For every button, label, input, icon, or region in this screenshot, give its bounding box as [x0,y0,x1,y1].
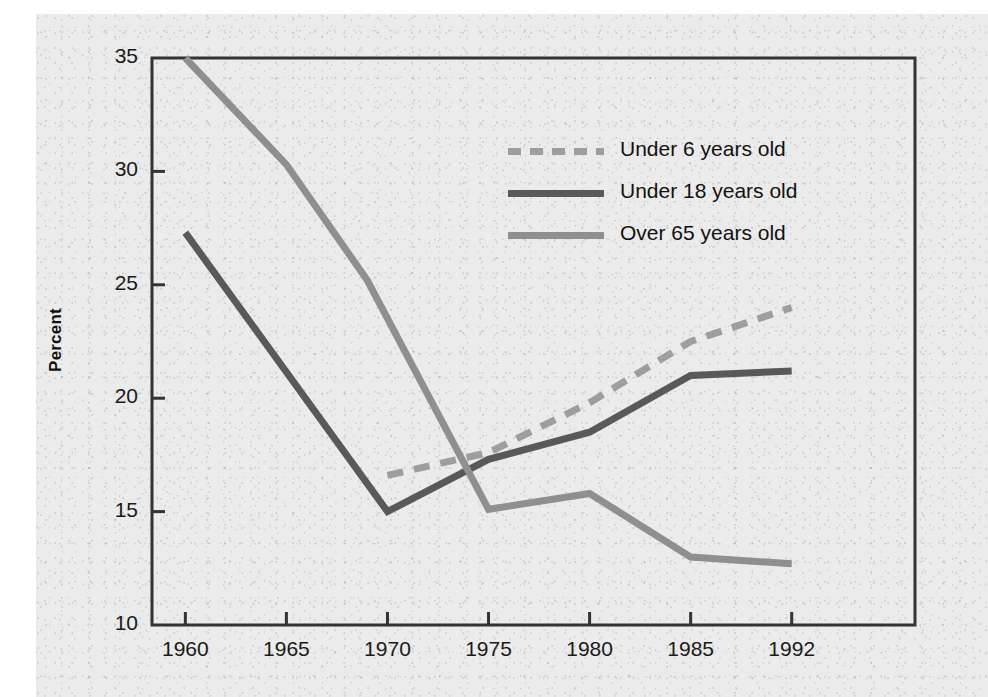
y-axis-title: Percent [46,280,66,400]
x-tick-label: 1960 [140,637,230,661]
y-tick-label: 20 [78,384,138,408]
legend-swatch-icon [508,190,604,197]
data-series-layer [185,58,791,564]
y-tick-label: 25 [78,271,138,295]
legend-label: Under 6 years old [620,137,786,161]
legend-item: Under 6 years old [508,135,868,177]
x-tick-label: 1980 [545,637,635,661]
y-tick-label: 35 [78,44,138,68]
series-line-under-18-years-old [185,233,791,512]
y-tick-label: 15 [78,498,138,522]
x-tick-label: 1985 [646,637,736,661]
y-tick-label: 10 [78,611,138,635]
x-tick-label: 1975 [444,637,534,661]
chart-figure: Percent 353025201510 1960196519701975198… [0,0,988,697]
legend-item: Over 65 years old [508,219,868,261]
series-line-under-6-years-old [388,308,792,476]
legend-label: Under 18 years old [620,179,797,203]
series-line-over-65-years-old [185,58,791,564]
legend-item: Under 18 years old [508,177,868,219]
x-tick-label: 1965 [241,637,331,661]
chart-legend: Under 6 years oldUnder 18 years oldOver … [508,135,868,261]
legend-swatch-icon [508,148,604,155]
line-chart-plot [0,0,988,697]
legend-swatch-icon [508,232,604,239]
x-tick-label: 1970 [342,637,432,661]
y-tick-label: 30 [78,157,138,181]
x-tick-label: 1992 [747,637,837,661]
legend-label: Over 65 years old [620,221,786,245]
